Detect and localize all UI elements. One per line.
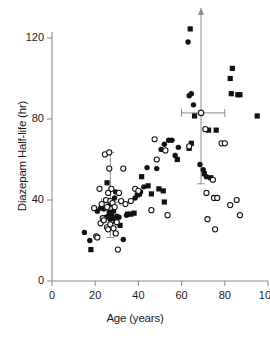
data-point-filled-square — [104, 180, 109, 185]
data-point-open-circle — [237, 213, 242, 218]
data-point-open-circle — [123, 201, 128, 206]
x-tick-label: 0 — [32, 289, 72, 301]
data-point-filled-circle — [87, 238, 92, 243]
data-point-filled-circle — [82, 230, 87, 235]
data-point-open-circle — [234, 197, 239, 202]
data-point-filled-square — [161, 188, 166, 193]
data-point-filled-circle — [189, 91, 194, 96]
data-point-open-circle — [204, 190, 209, 195]
data-point-open-circle — [116, 190, 121, 195]
data-point-open-circle — [111, 226, 116, 231]
data-point-open-circle — [115, 247, 120, 252]
data-point-filled-circle — [204, 174, 209, 179]
y-tick-label: 0 — [2, 274, 44, 286]
data-point-open-circle — [97, 186, 102, 191]
data-point-filled-square — [188, 26, 193, 31]
data-point-open-circle — [210, 177, 215, 182]
data-point-open-circle — [112, 204, 117, 209]
data-point-filled-square — [228, 76, 233, 81]
data-point-open-circle — [154, 157, 159, 162]
data-point-open-circle — [106, 227, 111, 232]
data-point-open-circle — [152, 137, 157, 142]
data-point-filled-circle — [191, 102, 196, 107]
data-point-open-circle — [107, 150, 112, 155]
data-point-filled-square — [230, 66, 235, 71]
data-point-filled-circle — [162, 142, 167, 147]
data-point-filled-circle — [144, 165, 149, 170]
data-point-open-circle — [95, 235, 100, 240]
data-point-open-circle — [107, 166, 112, 171]
x-axis-label: Age (years) — [0, 312, 270, 324]
data-point-filled-circle — [185, 39, 190, 44]
data-point-filled-circle — [169, 138, 174, 143]
data-point-filled-square — [237, 92, 242, 97]
data-point-open-circle — [228, 202, 233, 207]
data-point-filled-square — [255, 113, 260, 118]
x-tick-label: 40 — [118, 289, 158, 301]
y-tick-label: 120 — [2, 31, 44, 43]
data-point-filled-square — [214, 128, 219, 133]
data-point-filled-square — [162, 199, 167, 204]
y-axis-label: Diazepam Half-life (hr) — [16, 76, 28, 236]
data-point-filled-square — [88, 247, 93, 252]
data-point-filled-circle — [201, 167, 206, 172]
data-point-filled-square — [229, 91, 234, 96]
data-point-filled-circle — [116, 215, 121, 220]
x-tick-label: 100 — [248, 289, 270, 301]
y-tick-label: 80 — [2, 112, 44, 124]
data-point-open-circle — [114, 220, 119, 225]
data-point-open-circle — [205, 217, 210, 222]
data-point-open-circle — [109, 186, 114, 191]
data-point-filled-circle — [124, 212, 129, 217]
data-point-open-circle — [104, 204, 109, 209]
data-point-open-circle — [113, 231, 118, 236]
data-point-filled-square — [131, 211, 136, 216]
x-tick-label: 80 — [205, 289, 245, 301]
data-point-open-circle — [222, 141, 227, 146]
data-point-filled-circle — [197, 162, 202, 167]
data-point-open-circle — [165, 213, 170, 218]
data-point-open-circle — [121, 166, 126, 171]
data-point-filled-circle — [154, 166, 159, 171]
y-tick-label: 40 — [2, 193, 44, 205]
data-point-open-circle — [198, 110, 203, 115]
x-tick-label: 20 — [75, 289, 115, 301]
data-point-open-circle — [149, 208, 154, 213]
data-point-filled-square — [149, 191, 154, 196]
data-point-filled-circle — [172, 153, 177, 158]
data-point-filled-circle — [141, 184, 146, 189]
data-point-filled-square — [192, 113, 197, 118]
data-point-open-circle — [128, 198, 133, 203]
data-point-open-circle — [99, 201, 104, 206]
data-point-open-circle — [203, 127, 208, 132]
data-point-open-circle — [92, 206, 97, 211]
data-point-filled-circle — [121, 237, 126, 242]
data-point-open-circle — [215, 195, 220, 200]
data-point-open-circle — [163, 148, 168, 153]
errorbar-up-arrow — [198, 8, 204, 15]
data-point-filled-circle — [176, 145, 181, 150]
data-point-open-circle — [136, 188, 141, 193]
data-point-open-circle — [212, 227, 217, 232]
x-tick-label: 60 — [162, 289, 202, 301]
data-point-filled-square — [139, 174, 144, 179]
data-point-open-circle — [101, 218, 106, 223]
data-point-open-circle — [187, 144, 192, 149]
